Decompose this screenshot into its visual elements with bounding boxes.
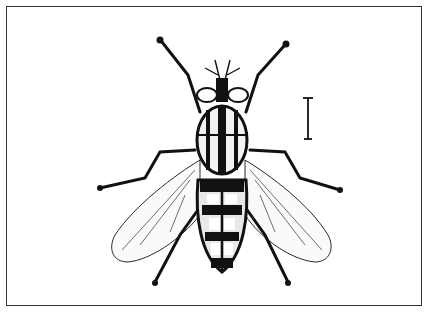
antennae [205, 60, 240, 80]
head [197, 78, 248, 102]
scale-bar [303, 98, 313, 139]
right-wing [245, 160, 331, 262]
thorax [197, 106, 247, 174]
abdomen [197, 180, 247, 272]
left-wing [112, 160, 200, 262]
fly-illustration [0, 0, 430, 313]
